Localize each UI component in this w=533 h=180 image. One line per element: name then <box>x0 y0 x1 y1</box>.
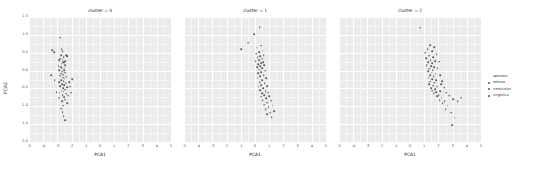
data-point <box>263 74 265 76</box>
x-tick-label: -5 <box>27 145 31 149</box>
y-tick-label: -0.5 <box>21 87 28 91</box>
x-tick-label: 5 <box>170 145 172 149</box>
data-point <box>259 81 261 83</box>
data-point <box>258 69 260 71</box>
data-point <box>261 58 263 60</box>
data-point <box>265 98 267 100</box>
x-tick-label: -4 <box>41 145 45 149</box>
data-point <box>259 26 261 28</box>
data-point <box>434 67 436 69</box>
data-point <box>449 95 451 97</box>
x-tick-label: -1 <box>394 145 398 149</box>
data-point <box>439 99 441 101</box>
data-point <box>433 93 435 95</box>
data-point <box>66 55 68 57</box>
x-tick-label: 1 <box>268 145 270 149</box>
y-tick-label: -1.5 <box>21 122 28 126</box>
data-point <box>434 88 436 90</box>
data-point <box>62 105 64 107</box>
legend-items: setosaversicolorvirginica <box>486 80 532 98</box>
data-point <box>253 33 255 35</box>
data-point <box>261 79 263 81</box>
data-point <box>66 76 68 78</box>
data-point <box>63 84 65 86</box>
x-tick-label: 5 <box>480 145 482 149</box>
data-point <box>433 75 435 77</box>
x-axis-title: PCA1 <box>339 153 481 157</box>
data-point <box>273 110 275 112</box>
facet-panel: cluster = 2-5-4-3-2-1012345PCA1 <box>339 0 481 180</box>
y-tick-label: 0.5 <box>22 51 28 55</box>
x-tick-label: -2 <box>225 145 229 149</box>
data-point <box>432 90 434 92</box>
data-point <box>436 53 438 55</box>
data-point <box>51 74 53 76</box>
data-point <box>64 96 66 98</box>
data-point <box>437 68 439 70</box>
data-point <box>435 73 437 75</box>
x-tick-label: -3 <box>211 145 215 149</box>
legend-item[interactable]: virginica <box>486 93 532 98</box>
data-point <box>66 87 68 89</box>
data-point <box>63 56 65 58</box>
gridline-horizontal-minor <box>29 133 171 134</box>
gridline-horizontal-minor <box>339 44 481 45</box>
data-point <box>267 102 269 104</box>
data-point <box>434 46 436 48</box>
data-point <box>429 44 431 46</box>
data-point <box>61 63 63 65</box>
data-point <box>267 92 269 94</box>
x-tick-label: -1 <box>84 145 88 149</box>
data-point <box>266 113 268 115</box>
data-point <box>68 95 70 97</box>
data-point <box>65 93 67 95</box>
data-point <box>262 61 264 63</box>
data-point <box>436 86 438 88</box>
x-tick-label: 0 <box>254 145 256 149</box>
data-point <box>257 57 259 59</box>
gridline-horizontal-minor <box>29 97 171 98</box>
facet-title: cluster = 1 <box>184 9 326 13</box>
legend-item[interactable]: setosa <box>486 80 532 85</box>
data-point <box>438 61 440 63</box>
gridline-horizontal-minor <box>29 80 171 81</box>
legend-marker-icon <box>486 87 492 92</box>
data-point <box>258 59 260 61</box>
legend-item-label: versicolor <box>493 88 511 92</box>
data-point <box>56 91 58 93</box>
x-tick-label: -1 <box>239 145 243 149</box>
data-point <box>430 59 432 61</box>
data-point <box>260 84 262 86</box>
data-point <box>64 119 66 121</box>
data-point <box>450 112 452 114</box>
data-point <box>426 64 428 66</box>
data-point <box>65 82 67 84</box>
data-point <box>269 95 271 97</box>
data-point <box>425 58 427 60</box>
x-tick-label: 3 <box>451 145 453 149</box>
facet-panel: cluster = 0-5-4-3-2-1012345PCA1 <box>29 0 171 180</box>
data-point <box>445 92 447 94</box>
gridline-horizontal-minor <box>184 133 326 134</box>
data-point <box>445 108 447 110</box>
x-tick-label: 2 <box>282 145 284 149</box>
y-axis-tick-labels: 1.51.00.50.0-0.5-1.0-1.5-2.0 <box>8 0 28 180</box>
data-point <box>424 52 426 54</box>
data-point <box>443 87 445 89</box>
data-point <box>262 68 264 70</box>
data-point <box>438 94 440 96</box>
data-point <box>432 78 434 80</box>
legend-item[interactable]: versicolor <box>486 87 532 92</box>
data-point <box>60 108 62 110</box>
data-point <box>428 77 430 79</box>
legend-marker-icon <box>486 80 492 85</box>
data-point <box>271 116 273 118</box>
data-point <box>261 71 263 73</box>
x-tick-label: -2 <box>380 145 384 149</box>
data-point <box>430 81 432 83</box>
x-tick-label: 0 <box>99 145 101 149</box>
data-point <box>268 106 270 108</box>
x-axis-title: PCA1 <box>29 153 171 157</box>
x-tick-label: 4 <box>156 145 158 149</box>
gridline-horizontal-minor <box>339 26 481 27</box>
